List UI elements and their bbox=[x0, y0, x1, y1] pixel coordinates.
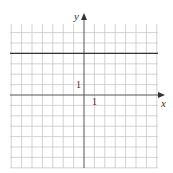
coordinate-grid bbox=[0, 0, 173, 173]
y-axis-arrow-icon bbox=[81, 13, 87, 20]
y-tick-label: 1 bbox=[76, 80, 81, 90]
y-axis-label: y bbox=[74, 11, 79, 22]
x-tick-label: 1 bbox=[92, 97, 97, 107]
x-axis-label: x bbox=[161, 98, 166, 109]
